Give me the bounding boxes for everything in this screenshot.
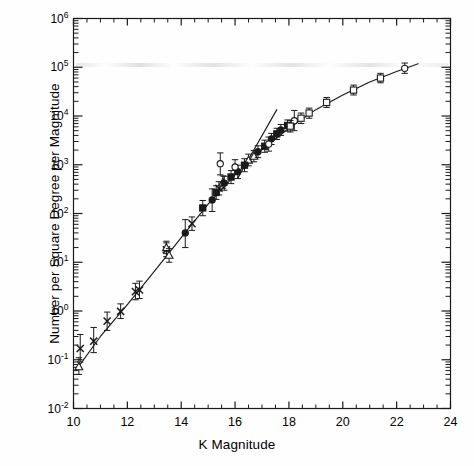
bright-counts-triangle	[75, 151, 258, 375]
data-point	[104, 312, 111, 330]
x-tick-label: 14	[161, 415, 201, 429]
x-tick-label: 20	[323, 415, 363, 429]
y-tick-label: 103	[50, 156, 68, 172]
x-tick-label: 16	[215, 415, 255, 429]
y-tick-label: 101	[50, 253, 68, 269]
data-point	[306, 108, 312, 118]
model-count-curve	[76, 64, 418, 370]
y-tick-label: 102	[50, 205, 68, 221]
x-tick-label: 18	[269, 415, 309, 429]
x-tick-label: 22	[377, 415, 417, 429]
x-tick-label: 24	[431, 415, 471, 429]
y-tick-label: 100	[50, 302, 68, 318]
data-point	[350, 85, 356, 95]
data-point	[188, 217, 195, 230]
y-tick-label: 105	[50, 58, 68, 74]
y-tick-label: 104	[50, 107, 68, 123]
x-tick-label: 10	[54, 415, 94, 429]
data-point	[402, 63, 408, 73]
data-point	[323, 97, 329, 107]
data-point	[377, 73, 383, 82]
data-point	[217, 153, 223, 175]
y-tick-label: 10-2	[48, 400, 69, 416]
data-point	[182, 220, 188, 248]
y-tick-label: 10-1	[48, 351, 69, 367]
figure-canvas: Number per Square Degree per Magnitude K…	[0, 0, 474, 466]
x-tick-label: 12	[107, 415, 147, 429]
x-axis-title: K Magnitude	[0, 437, 474, 452]
plot-svg	[0, 0, 474, 466]
plot-frame	[74, 19, 451, 409]
y-tick-label: 106	[50, 10, 68, 26]
